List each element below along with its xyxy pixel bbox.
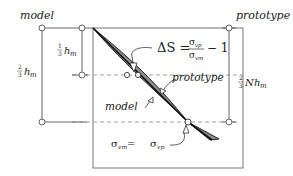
svg-text:2: 2 [18, 63, 22, 70]
svg-text:=: = [127, 138, 135, 149]
svg-text:m: m [260, 82, 267, 90]
svg-text:vp: vp [195, 42, 202, 49]
svg-text:vm: vm [118, 143, 127, 150]
node-circle [226, 25, 232, 31]
svg-text:− 1: − 1 [207, 41, 229, 55]
stress-comparison-diagram: model prototype 1 3 h m 2 3 h m 2 3 N h … [0, 0, 293, 176]
model-curve-label: model [105, 100, 138, 112]
svg-text:m: m [30, 71, 37, 79]
node-circle [226, 119, 232, 125]
one-third-hm-label: 1 3 h m [57, 42, 77, 58]
node-circle [124, 72, 129, 77]
crossover-point [185, 119, 191, 125]
svg-text:3: 3 [239, 82, 243, 89]
node-circle [135, 72, 140, 77]
svg-text:σ: σ [150, 138, 157, 149]
node-circle [79, 72, 85, 78]
model-dimension-lines [39, 25, 93, 125]
svg-text:vp: vp [157, 143, 164, 151]
equality-equation: σ vm = σ vp [111, 138, 164, 151]
svg-text:ΔS =: ΔS = [157, 40, 190, 55]
svg-text:3: 3 [18, 71, 22, 78]
svg-text:3: 3 [58, 50, 62, 57]
node-circle [79, 25, 85, 31]
equality-leader [170, 126, 186, 145]
svg-text:m: m [70, 50, 77, 58]
svg-text:σ: σ [111, 138, 118, 149]
two-thirds-hm-label: 2 3 h m [17, 63, 37, 79]
prototype-curve-label: prototype [172, 71, 224, 83]
model-top-label: model [20, 9, 55, 22]
delta-s-equation: ΔS = σ vp σ vm − 1 [157, 37, 229, 61]
prototype-top-label: prototype [236, 9, 291, 22]
two-thirds-n-hm-label: 2 3 N h m [238, 74, 267, 90]
svg-text:1: 1 [58, 42, 62, 49]
node-circle [39, 25, 45, 31]
svg-text:vm: vm [195, 55, 203, 61]
leader-arrows [130, 47, 189, 145]
node-circle [39, 119, 45, 125]
svg-text:2: 2 [239, 74, 243, 81]
